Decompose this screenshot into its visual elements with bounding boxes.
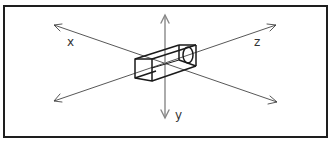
x-axis-label: x: [67, 35, 74, 49]
y-axis-label: y: [175, 108, 182, 122]
z-axis-label: z: [254, 35, 260, 49]
axes-diagram: x y z: [0, 0, 334, 141]
